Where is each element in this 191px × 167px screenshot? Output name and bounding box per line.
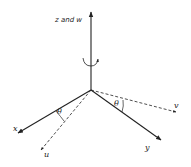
u-axis-label: u <box>44 150 49 159</box>
y-axis-label: y <box>144 143 150 152</box>
axes-diagram: z and w x u y v θ θ <box>0 0 191 167</box>
v-axis-label: v <box>174 101 179 110</box>
y-axis <box>91 90 161 140</box>
x-axis-label: x <box>13 124 18 133</box>
z-w-axis-label: z and w <box>54 16 82 24</box>
theta-arc-y-v <box>122 100 123 112</box>
u-axis <box>41 90 91 150</box>
v-axis <box>91 90 176 112</box>
theta-label-x-u: θ <box>57 107 62 116</box>
x-axis <box>18 90 91 133</box>
theta-label-y-v: θ <box>114 99 119 108</box>
